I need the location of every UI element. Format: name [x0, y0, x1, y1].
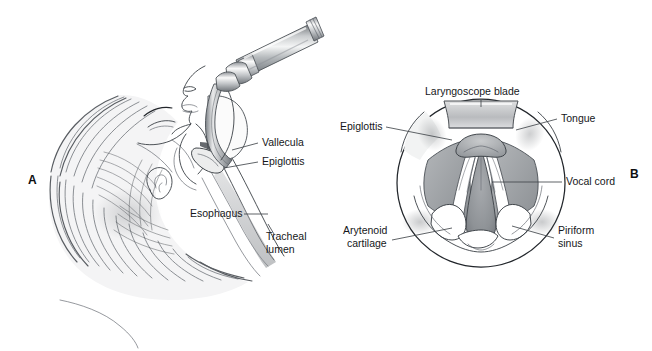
illustration-canvas: A Vallecula Epiglottis Esophagus Trachea…	[0, 0, 652, 351]
label-epiglottis-a: Epiglottis	[262, 155, 305, 167]
label-sinus: sinus	[558, 237, 583, 249]
figure-root: A Vallecula Epiglottis Esophagus Trachea…	[0, 0, 652, 351]
panel-a-letter: A	[28, 173, 37, 187]
panel-b-illustration	[386, 99, 565, 267]
label-epiglottis-b: Epiglottis	[340, 120, 383, 132]
label-cartilage: cartilage	[347, 237, 387, 249]
label-tongue: Tongue	[561, 112, 596, 124]
label-tracheal: Tracheal	[266, 230, 306, 242]
shoulder-line	[60, 300, 138, 348]
label-vocal-cord: Vocal cord	[566, 175, 615, 187]
label-lumen: lumen	[266, 243, 295, 255]
label-arytenoid: Arytenoid	[343, 224, 388, 236]
laryngoscope-handle	[216, 17, 324, 91]
panel-a-illustration	[49, 17, 324, 348]
label-esophagus: Esophagus	[190, 207, 243, 219]
label-laryngoscope-blade: Laryngoscope blade	[425, 85, 520, 97]
panel-b-letter: B	[630, 167, 639, 181]
label-piriform: Piriform	[558, 224, 594, 236]
label-vallecula: Vallecula	[262, 136, 304, 148]
